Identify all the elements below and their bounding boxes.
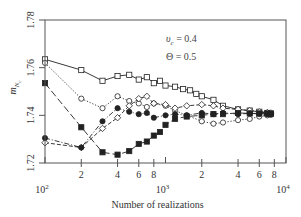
data-point: [211, 112, 216, 117]
data-point: [247, 111, 252, 116]
x-minor-tick-label: 4: [115, 169, 120, 180]
data-point: [79, 145, 84, 150]
y-axis: 1.721.741.761.78: [25, 11, 45, 172]
data-point: [163, 113, 168, 118]
data-point: [127, 148, 132, 153]
data-point: [100, 150, 105, 155]
data-point: [144, 104, 149, 109]
x-minor-tick-label: 4: [236, 169, 241, 180]
y-axis-title: mNc: [7, 80, 22, 95]
data-point: [151, 115, 156, 120]
data-point: [247, 116, 252, 121]
data-point: [157, 78, 162, 83]
data-point: [181, 87, 186, 92]
data-point: [115, 106, 120, 111]
x-minor-tick-label: 6: [136, 169, 141, 180]
data-point: [211, 97, 216, 102]
data-point: [115, 73, 120, 78]
data-point: [115, 94, 120, 99]
x-minor-tick-label: 2: [199, 169, 204, 180]
data-point: [163, 122, 168, 127]
series-layer: [42, 57, 274, 158]
data-point: [257, 111, 262, 116]
data-point: [220, 112, 225, 117]
data-point: [210, 103, 216, 109]
x-minor-tick-label: 8: [151, 169, 156, 180]
data-point: [172, 84, 177, 89]
data-point: [100, 78, 105, 83]
data-point: [100, 106, 105, 111]
data-point: [79, 96, 84, 101]
data-point: [235, 110, 240, 115]
data-point: [127, 109, 132, 114]
data-point: [115, 152, 120, 157]
data-point: [220, 120, 225, 125]
data-point: [79, 67, 84, 72]
y-tick-label: 1.72: [25, 154, 36, 172]
data-point: [172, 116, 177, 121]
data-point: [184, 103, 190, 109]
data-point: [211, 121, 216, 126]
data-point: [136, 77, 141, 82]
data-point: [144, 110, 149, 115]
y-tick-label: 1.78: [25, 11, 36, 29]
data-point: [199, 94, 204, 99]
annotations: υc = 0.4Θ = 0.5: [166, 33, 197, 62]
data-point: [194, 91, 199, 96]
data-point: [151, 133, 156, 138]
data-point: [151, 81, 156, 86]
data-point: [268, 111, 273, 116]
annotation-theta: Θ = 0.5: [166, 51, 196, 62]
data-point: [127, 72, 132, 77]
data-point: [199, 119, 204, 124]
y-tick-label: 1.76: [25, 59, 36, 77]
data-point: [157, 129, 162, 134]
annotation-upsilon: υc = 0.4: [166, 33, 197, 47]
x-major-tick-label: 103: [156, 183, 170, 195]
x-axis-title: Number of realizations: [111, 199, 203, 210]
data-point: [199, 101, 205, 107]
data-point: [144, 139, 149, 144]
data-point: [100, 119, 105, 124]
data-point: [144, 75, 149, 80]
x-minor-tick-label: 2: [79, 169, 84, 180]
data-point: [199, 113, 204, 118]
y-tick-label: 1.74: [25, 107, 36, 125]
data-point: [184, 114, 189, 119]
data-point: [136, 141, 141, 146]
data-point: [163, 83, 168, 88]
data-point: [79, 125, 84, 130]
data-point: [235, 118, 240, 123]
x-minor-tick-label: 6: [257, 169, 262, 180]
x-major-tick-label: 104: [276, 183, 290, 195]
chart: 10210310424682468 1.721.741.761.78 Numbe…: [0, 0, 301, 217]
data-point: [136, 112, 141, 117]
data-point: [136, 95, 142, 101]
x-major-tick-label: 102: [35, 183, 49, 195]
x-minor-tick-label: 8: [272, 169, 277, 180]
data-point: [187, 88, 192, 93]
